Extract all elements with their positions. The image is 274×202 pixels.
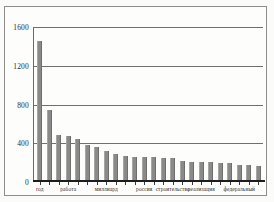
- bar: [161, 158, 166, 181]
- bar-slot: [54, 27, 64, 181]
- bar: [75, 139, 80, 181]
- x-axis-label: реализация: [188, 186, 215, 192]
- x-tick: [49, 182, 50, 185]
- x-tick: [68, 182, 69, 185]
- bar-slot: [197, 27, 207, 181]
- x-tick: [40, 182, 41, 185]
- x-tick: [192, 182, 193, 185]
- bars-group: [35, 27, 263, 181]
- x-axis-label: федеральный: [223, 186, 255, 192]
- bar-slot: [206, 27, 216, 181]
- x-tick: [201, 182, 202, 185]
- chart-frame: 040080012001600 годработамиллиардроссияс…: [4, 6, 267, 196]
- y-tick-label: 0: [25, 178, 29, 187]
- bar: [37, 41, 42, 181]
- bar: [66, 136, 71, 181]
- x-axis-label: строительство: [156, 186, 190, 192]
- x-tick: [116, 182, 117, 185]
- bar: [189, 162, 194, 181]
- x-axis-label: миллиард: [95, 186, 118, 192]
- bar-slot: [168, 27, 178, 181]
- bar: [104, 151, 109, 181]
- bar: [123, 156, 128, 181]
- x-tick: [230, 182, 231, 185]
- x-tick: [220, 182, 221, 185]
- x-tick: [182, 182, 183, 185]
- bar-slot: [178, 27, 188, 181]
- y-tick-label: 1600: [13, 23, 29, 32]
- x-axis-label: работа: [60, 186, 76, 192]
- bar: [47, 110, 52, 181]
- x-tick: [239, 182, 240, 185]
- bar-slot: [187, 27, 197, 181]
- y-tick-label: 1200: [13, 61, 29, 70]
- x-tick: [258, 182, 259, 185]
- x-tick: [173, 182, 174, 185]
- x-axis-labels: годработамиллиардроссиястроительствореал…: [33, 186, 265, 198]
- bar-slot: [73, 27, 83, 181]
- plot-area: 040080012001600: [33, 27, 263, 182]
- bar: [132, 157, 137, 181]
- bar-slot: [149, 27, 159, 181]
- x-tick: [163, 182, 164, 185]
- bar: [208, 162, 213, 181]
- bar: [56, 135, 61, 182]
- x-tick: [87, 182, 88, 185]
- bar: [218, 163, 223, 181]
- x-tick: [135, 182, 136, 185]
- bar: [180, 161, 185, 181]
- bar: [256, 166, 261, 182]
- bar: [227, 163, 232, 181]
- bar: [94, 147, 99, 181]
- x-tick: [59, 182, 60, 185]
- x-tick: [78, 182, 79, 185]
- bar: [199, 162, 204, 181]
- y-tick-label: 800: [17, 100, 29, 109]
- bar: [237, 165, 242, 181]
- x-tick: [97, 182, 98, 185]
- x-axis-label: год: [36, 186, 44, 192]
- bar-slot: [244, 27, 254, 181]
- bar: [85, 145, 90, 181]
- bar-slot: [225, 27, 235, 181]
- bar-slot: [35, 27, 45, 181]
- bar: [113, 154, 118, 181]
- bar-slot: [216, 27, 226, 181]
- x-axis-line: [33, 180, 265, 182]
- x-tick: [106, 182, 107, 185]
- bar-slot: [235, 27, 245, 181]
- bar-slot: [121, 27, 131, 181]
- x-tick: [144, 182, 145, 185]
- bar: [246, 165, 251, 181]
- x-tick: [211, 182, 212, 185]
- bar-slot: [45, 27, 55, 181]
- chart-figure: 040080012001600 годработамиллиардроссияс…: [0, 0, 274, 202]
- bar-slot: [140, 27, 150, 181]
- x-tick: [154, 182, 155, 185]
- bar: [151, 157, 156, 181]
- bar-slot: [64, 27, 74, 181]
- x-tick: [249, 182, 250, 185]
- bar: [170, 158, 175, 181]
- x-tick: [125, 182, 126, 185]
- bar: [142, 157, 147, 181]
- bar-slot: [111, 27, 121, 181]
- bar-slot: [102, 27, 112, 181]
- bar-slot: [83, 27, 93, 181]
- x-axis-label: россия: [136, 186, 152, 192]
- bar-slot: [130, 27, 140, 181]
- y-tick-label: 400: [17, 139, 29, 148]
- bar-slot: [159, 27, 169, 181]
- bar-slot: [254, 27, 264, 181]
- bar-slot: [92, 27, 102, 181]
